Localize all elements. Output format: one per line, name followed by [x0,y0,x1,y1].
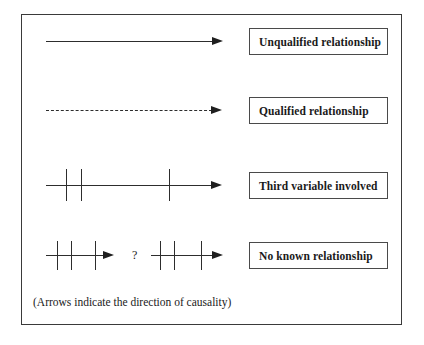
tick-mark-1 [66,169,67,201]
arrow-shaft [46,41,213,42]
question-mark-label: ? [132,248,137,263]
label-box-qualified: Qualified relationship [249,97,388,124]
label-box-third-variable: Third variable involved [249,172,388,199]
tick-mark-3 [169,169,170,201]
diagram-frame: Unqualified relationship Qualified relat… [21,14,402,325]
arrow-shaft [46,185,212,186]
tick-mark-2 [81,169,82,201]
label-text-qualified: Qualified relationship [259,105,369,117]
arrow-head-icon [211,106,222,114]
arrow-head-icon [212,37,223,45]
tick-mark-left-2 [71,241,72,270]
arrow-head-icon [211,181,222,189]
diagram-caption: (Arrows indicate the direction of causal… [33,296,231,308]
tick-mark-right-1 [160,241,161,270]
tick-mark-right-3 [201,241,202,270]
arrow-head-right-icon [212,251,223,259]
label-box-no-known: No known relationship [249,242,388,269]
label-text-third-variable: Third variable involved [259,180,378,192]
tick-mark-left-3 [95,241,96,270]
label-box-unqualified: Unqualified relationship [249,28,388,55]
arrow-head-left-icon [103,251,114,259]
tick-mark-left-1 [57,241,58,270]
tick-mark-right-2 [174,241,175,270]
diagram-canvas: Unqualified relationship Qualified relat… [0,0,424,345]
arrow-shaft-dashed [46,110,212,111]
label-text-unqualified: Unqualified relationship [259,36,381,48]
label-text-no-known: No known relationship [259,250,373,262]
